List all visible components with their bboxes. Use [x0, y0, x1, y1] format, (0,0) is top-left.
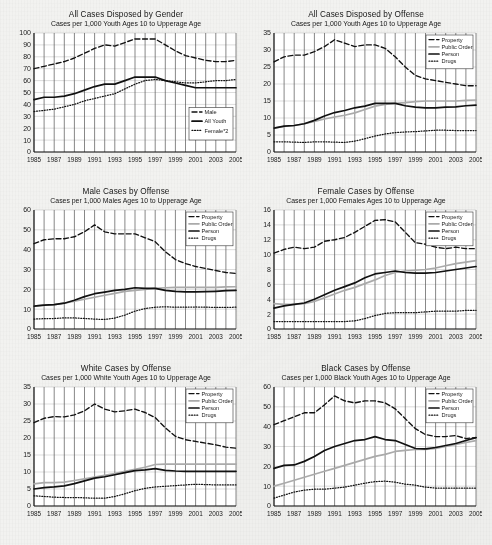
x-tick-label: 2001 — [428, 156, 443, 163]
x-tick-label: 1991 — [87, 156, 102, 163]
y-tick-label: 0 — [267, 502, 271, 509]
chart-subtitle: Cases per 1,000 White Youth Ages 10 to U… — [41, 374, 211, 381]
y-tick-label: 40 — [23, 246, 31, 253]
chart-legend: MaleAll YouthFemale*2 — [189, 107, 233, 140]
chart-subtitle: Cases per 1,000 Females Ages 10 to Upper… — [286, 197, 445, 204]
chart-legend: PropertyPublic OrderPersonDrugs — [426, 212, 473, 246]
y-tick-label: 10 — [23, 137, 31, 144]
legend-label: Person — [202, 405, 220, 411]
x-tick-label: 1993 — [348, 510, 363, 517]
x-axis-ticks: 1985198719891991199319951997199920012003… — [267, 510, 482, 517]
y-tick-label: 20 — [23, 434, 31, 441]
y-tick-label: 16 — [263, 206, 271, 213]
y-tick-label: 2 — [267, 311, 271, 318]
y-tick-label: 12 — [263, 236, 271, 243]
y-tick-label: 14 — [263, 221, 271, 228]
x-tick-label: 1991 — [87, 333, 102, 340]
x-tick-label: 2005 — [229, 156, 242, 163]
legend-label: All Youth — [205, 118, 227, 124]
chart-title: Female Cases by Offense — [318, 187, 415, 196]
chart-subtitle: Cases per 1,000 Youth Ages 10 to Upperag… — [291, 20, 441, 27]
chart-title: All Cases Disposed by Gender — [69, 10, 183, 19]
legend-label: Property — [202, 391, 223, 397]
y-tick-label: 20 — [263, 463, 271, 470]
x-tick-label: 1997 — [388, 333, 403, 340]
x-tick-label: 1989 — [307, 333, 322, 340]
x-tick-label: 1989 — [67, 333, 82, 340]
x-tick-label: 1989 — [67, 510, 82, 517]
y-tick-label: 0 — [27, 325, 31, 332]
x-tick-label: 1985 — [267, 510, 282, 517]
y-tick-label: 90 — [23, 41, 31, 48]
x-tick-label: 2005 — [229, 333, 242, 340]
chart-panel-black-cases-by-offense: Black Cases by OffenseCases per 1,000 Bl… — [246, 364, 486, 541]
x-tick-label: 1991 — [327, 510, 342, 517]
chart-title: Male Cases by Offense — [82, 187, 169, 196]
y-tick-label: 35 — [263, 29, 271, 36]
y-tick-label: 70 — [23, 65, 31, 72]
x-tick-label: 2003 — [449, 156, 464, 163]
x-tick-label: 1989 — [67, 156, 82, 163]
chart-legend: PropertyPublic OrderPersonDrugs — [426, 389, 473, 423]
x-tick-label: 1987 — [287, 156, 302, 163]
x-tick-label: 2005 — [469, 156, 482, 163]
x-tick-label: 1999 — [408, 333, 423, 340]
chart-plot-male-cases-by-offense: 0102030405060198519871989199119931995199… — [10, 205, 242, 345]
x-tick-label: 1993 — [348, 156, 363, 163]
x-tick-label: 1991 — [327, 333, 342, 340]
y-tick-label: 0 — [27, 502, 31, 509]
chart-plot-all-cases-by-gender: 0102030405060708090100198519871989199119… — [10, 28, 242, 168]
legend-label: Female*2 — [205, 128, 229, 134]
x-tick-label: 1993 — [108, 156, 123, 163]
x-axis-ticks: 1985198719891991199319951997199920012003… — [267, 333, 482, 340]
legend-label: Male — [205, 109, 217, 115]
x-tick-label: 1997 — [148, 333, 163, 340]
x-tick-label: 2001 — [188, 510, 203, 517]
y-tick-label: 60 — [23, 77, 31, 84]
x-tick-label: 2003 — [209, 333, 224, 340]
y-tick-label: 25 — [23, 417, 31, 424]
x-tick-label: 1995 — [128, 510, 143, 517]
chart-title: White Cases by Offense — [81, 364, 171, 373]
y-tick-label: 10 — [23, 306, 31, 313]
x-tick-label: 1995 — [128, 333, 143, 340]
x-tick-label: 2003 — [209, 156, 224, 163]
legend-label: Public Order — [202, 398, 233, 404]
x-tick-label: 1985 — [27, 333, 42, 340]
y-tick-label: 5 — [27, 485, 31, 492]
chart-panel-all-cases-by-offense: All Cases Disposed by OffenseCases per 1… — [246, 10, 486, 187]
x-tick-label: 1991 — [327, 156, 342, 163]
legend-label: Person — [442, 51, 460, 57]
x-tick-label: 2001 — [428, 333, 443, 340]
y-tick-label: 40 — [263, 423, 271, 430]
y-tick-label: 15 — [23, 451, 31, 458]
x-tick-label: 1993 — [108, 510, 123, 517]
x-tick-label: 1997 — [388, 156, 403, 163]
legend-label: Person — [442, 228, 460, 234]
y-tick-label: 0 — [27, 148, 31, 155]
legend-label: Property — [442, 391, 463, 397]
x-tick-label: 1985 — [27, 510, 42, 517]
y-tick-label: 50 — [23, 226, 31, 233]
chart-legend: PropertyPublic OrderPersonDrugs — [426, 35, 473, 69]
chart-plot-white-cases-by-offense: 0510152025303519851987198919911993199519… — [10, 382, 242, 522]
legend-label: Property — [202, 214, 223, 220]
x-tick-label: 2001 — [428, 510, 443, 517]
y-tick-label: 6 — [267, 281, 271, 288]
x-axis-ticks: 1985198719891991199319951997199920012003… — [27, 510, 242, 517]
y-tick-label: 30 — [263, 443, 271, 450]
x-tick-label: 1999 — [408, 156, 423, 163]
x-tick-label: 1989 — [307, 510, 322, 517]
chart-panel-male-cases-by-offense: Male Cases by OffenseCases per 1,000 Mal… — [6, 187, 246, 364]
x-tick-label: 1997 — [148, 510, 163, 517]
x-tick-label: 1987 — [287, 510, 302, 517]
x-tick-label: 1987 — [47, 333, 62, 340]
x-tick-label: 1999 — [168, 510, 183, 517]
y-tick-label: 50 — [263, 403, 271, 410]
y-tick-label: 80 — [23, 53, 31, 60]
y-axis-ticks: 0102030405060 — [23, 206, 31, 332]
chart-panel-female-cases-by-offense: Female Cases by OffenseCases per 1,000 F… — [246, 187, 486, 364]
legend-label: Drugs — [442, 58, 457, 64]
x-tick-label: 2001 — [188, 156, 203, 163]
chart-subtitle: Cases per 1,000 Black Youth Ages 10 to U… — [282, 374, 451, 381]
